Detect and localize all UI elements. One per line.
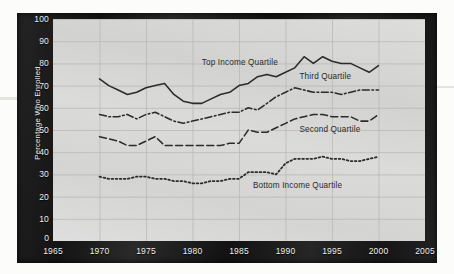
series-annotation-2: Second Quartile: [299, 125, 360, 134]
series-canvas: [53, 19, 425, 241]
x-axis-tick-1975: 1975: [126, 247, 166, 256]
x-axis-tick-1990: 1990: [266, 247, 306, 256]
chart-figure: Percentage Who Enrolled 1020304050607080…: [0, 0, 454, 274]
y-axis-tick-50: 50: [15, 126, 49, 135]
y-axis-tick-100: 100: [15, 15, 49, 24]
series-line-1: [100, 88, 379, 124]
y-axis-tick-80: 80: [15, 59, 49, 68]
y-axis-tick-40: 40: [15, 148, 49, 157]
y-axis-tick-60: 60: [15, 104, 49, 113]
scan-artifact: [437, 86, 454, 88]
gridlines: [53, 19, 425, 241]
series-line-3: [100, 157, 379, 184]
x-axis-tick-1970: 1970: [80, 247, 120, 256]
series-annotation-3: Bottom Income Quartile: [253, 181, 342, 190]
x-axis-tick-1995: 1995: [312, 247, 352, 256]
y-axis-tick-20: 20: [15, 193, 49, 202]
x-axis-tick-1965: 1965: [33, 247, 73, 256]
y-axis-tick-30: 30: [15, 170, 49, 179]
y-axis-tick-90: 90: [15, 37, 49, 46]
y-axis-tick-zero: 0: [15, 234, 49, 243]
y-axis-tick-70: 70: [15, 82, 49, 91]
x-axis-tick-1985: 1985: [219, 247, 259, 256]
plot-area: Top Income QuartileThird QuartileSecond …: [53, 19, 425, 241]
x-axis-tick-1980: 1980: [173, 247, 213, 256]
series-annotation-1: Third Quartile: [299, 72, 351, 81]
x-axis-tick-2005: 2005: [405, 247, 445, 256]
series-annotation-0: Top Income Quartile: [202, 58, 278, 67]
y-axis-ticks: 102030405060708090100: [15, 19, 49, 241]
y-axis-tick-10: 10: [15, 215, 49, 224]
x-axis-tick-2000: 2000: [359, 247, 399, 256]
x-axis-ticks: 196519701975198019851990199520002005: [53, 247, 437, 261]
